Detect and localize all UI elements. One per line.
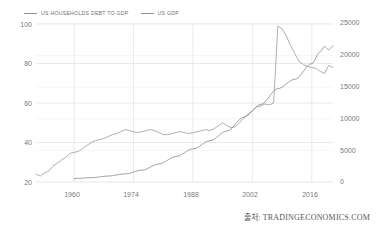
legend-swatch-us-gdp: [141, 13, 154, 14]
y-right-tick-0: 0: [340, 178, 374, 185]
y-left-tick-100: 100: [6, 21, 32, 28]
y-right-tick-10000: 10000: [340, 115, 374, 122]
y-left-tick-80: 80: [6, 60, 32, 67]
trading-economics-chart: US HOUSEHOLDS DEBT TO GDP US GDP 100 80 …: [0, 0, 378, 227]
legend-item-debt-to-gdp[interactable]: US HOUSEHOLDS DEBT TO GDP: [24, 11, 129, 16]
x-tick-1974: 1974: [111, 191, 151, 198]
y-right-tick-25000: 25000: [340, 19, 374, 26]
legend-label-debt-to-gdp: US HOUSEHOLDS DEBT TO GDP: [41, 11, 129, 16]
y-left-tick-60: 60: [6, 100, 32, 107]
series-line-us-gdp: [74, 46, 333, 178]
x-tick-1988: 1988: [171, 191, 211, 198]
legend-swatch-debt-to-gdp: [24, 13, 37, 14]
chart-legend: US HOUSEHOLDS DEBT TO GDP US GDP: [24, 7, 179, 21]
horizontal-gridlines-left: [36, 24, 333, 182]
y-right-tick-5000: 5000: [340, 147, 374, 154]
series-line-debt-to-gdp: [36, 26, 333, 176]
plot-area: [36, 24, 333, 182]
y-left-tick-40: 40: [6, 139, 32, 146]
y-right-tick-15000: 15000: [340, 83, 374, 90]
source-attribution: 출처: TRADINGECONOMICS.COM: [244, 211, 370, 222]
x-tick-1960: 1960: [52, 191, 92, 198]
y-left-tick-20: 20: [6, 179, 32, 186]
chart-svg: [36, 24, 333, 182]
y-right-tick-20000: 20000: [340, 51, 374, 58]
legend-item-us-gdp[interactable]: US GDP: [141, 11, 179, 16]
legend-label-us-gdp: US GDP: [158, 11, 179, 16]
x-tick-2002: 2002: [230, 191, 270, 198]
x-tick-2016: 2016: [290, 191, 330, 198]
